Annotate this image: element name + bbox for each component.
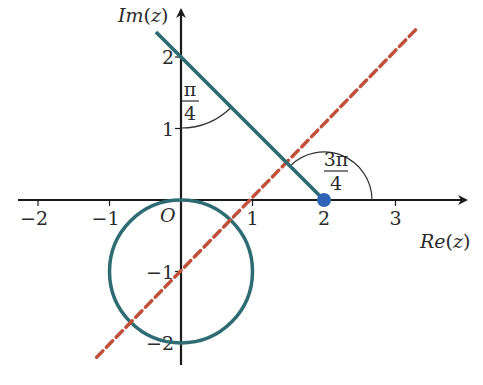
x-axis-label: Re(z) (419, 230, 470, 252)
y-tick-label: 1 (162, 118, 174, 140)
x-tick-label: −2 (20, 207, 48, 229)
argand-diagram: −2−112321−1−2 Im(z) Re(z) O π 4 3π 4 (0, 0, 483, 385)
y-tick-label: −1 (146, 261, 174, 283)
y-axis-label: Im(z) (117, 4, 168, 26)
angle-numerator: 3π (324, 148, 349, 170)
x-tick-label: 3 (389, 207, 401, 229)
angle-denominator: 4 (330, 172, 342, 194)
x-tick-label: 1 (246, 207, 258, 229)
angle-numerator: π (184, 78, 197, 100)
x-tick-label: 2 (318, 207, 330, 229)
angle-denominator: 4 (184, 102, 196, 124)
angle-label-3pi-over-4: 3π 4 (324, 148, 349, 194)
x-tick-label: −1 (91, 207, 119, 229)
origin-label: O (160, 204, 176, 226)
dashed-locus-line (97, 28, 417, 357)
angle-label-pi-over-4: π 4 (182, 78, 199, 124)
point-z-equals-2 (317, 193, 331, 207)
